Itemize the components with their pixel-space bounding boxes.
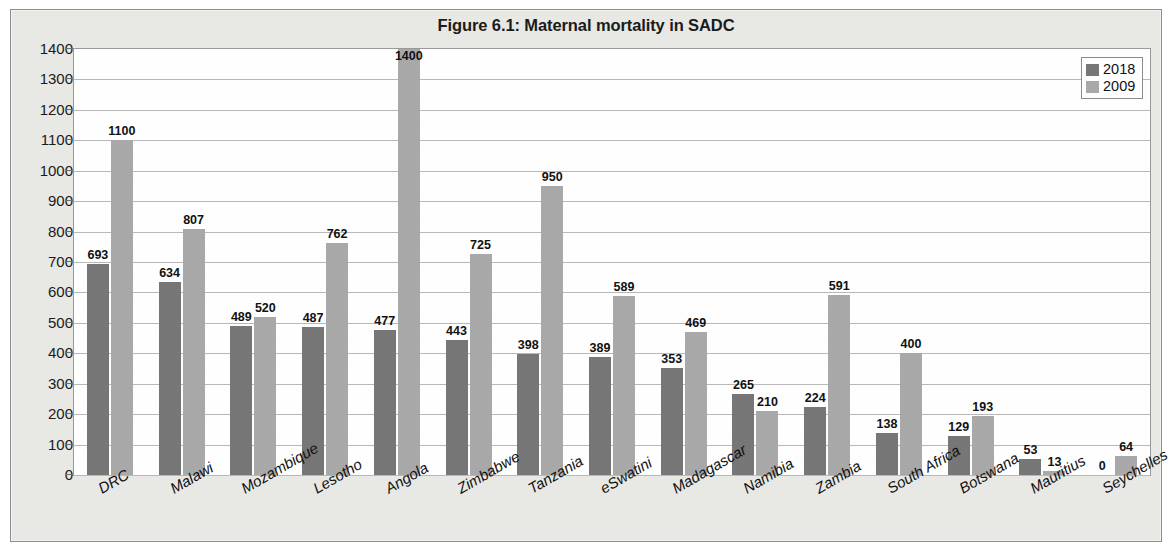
bar-value-label: 398 — [518, 338, 539, 352]
bar — [470, 254, 492, 475]
gridline — [74, 232, 1150, 233]
chart-title: Figure 6.1: Maternal mortality in SADC — [11, 16, 1161, 35]
legend-item-2009: 2009 — [1086, 78, 1138, 95]
bar — [685, 332, 707, 475]
bar — [111, 140, 133, 475]
y-axis-tick-mark — [66, 48, 73, 49]
bar-value-label: 589 — [614, 280, 635, 294]
bar — [1019, 459, 1041, 475]
bar-value-label: 224 — [805, 391, 826, 405]
bar — [661, 368, 683, 475]
bar-value-label: 950 — [542, 170, 563, 184]
gridline — [74, 171, 1150, 172]
y-axis-tick-mark — [66, 383, 73, 384]
plot-area: 6931100634807489520487762477140044372539… — [73, 48, 1151, 476]
bar-value-label: 1400 — [395, 49, 423, 63]
bar-value-label: 591 — [829, 279, 850, 293]
bar-value-label: 64 — [1119, 440, 1133, 454]
chart-legend: 2018 2009 — [1081, 57, 1143, 99]
bar — [541, 186, 563, 475]
bar — [613, 296, 635, 475]
y-axis-tick-mark — [66, 413, 73, 414]
bar-value-label: 193 — [972, 400, 993, 414]
bar — [446, 340, 468, 475]
bar — [87, 264, 109, 475]
y-axis-tick-mark — [66, 261, 73, 262]
y-axis-tick-mark — [66, 170, 73, 171]
x-axis: DRCMalawiMozambiqueLesothoAngolaZimbabwe… — [73, 476, 1151, 546]
y-axis-tick-mark — [66, 78, 73, 79]
bar-value-label: 443 — [446, 324, 467, 338]
y-axis-tick-mark — [66, 322, 73, 323]
y-axis-tick-mark — [66, 291, 73, 292]
bar-value-label: 477 — [374, 314, 395, 328]
bar-value-label: 725 — [470, 238, 491, 252]
legend-swatch-2018 — [1086, 64, 1099, 76]
bar-value-label: 389 — [590, 341, 611, 355]
bar-value-label: 520 — [255, 301, 276, 315]
bar — [374, 330, 396, 475]
bar — [254, 317, 276, 475]
gridline — [74, 201, 1150, 202]
bar — [398, 49, 420, 475]
bar-value-label: 807 — [183, 213, 204, 227]
bar — [900, 353, 922, 475]
bar-value-label: 400 — [900, 337, 921, 351]
y-axis-tick-mark — [66, 352, 73, 353]
gridline — [74, 262, 1150, 263]
bar-value-label: 210 — [757, 395, 778, 409]
bar — [517, 354, 539, 475]
bar-value-label: 265 — [733, 378, 754, 392]
bar — [159, 282, 181, 475]
gridline — [74, 292, 1150, 293]
legend-label-2009: 2009 — [1103, 79, 1135, 94]
bar-value-label: 487 — [303, 311, 324, 325]
y-axis-tick-mark — [66, 109, 73, 110]
y-axis-tick-mark — [66, 200, 73, 201]
gridline — [74, 79, 1150, 80]
y-axis: 1400130012001100100090080070060050040030… — [11, 48, 73, 476]
bar — [326, 243, 348, 475]
bar-value-label: 53 — [1023, 443, 1037, 457]
bar-value-label: 693 — [87, 248, 108, 262]
bar-value-label: 0 — [1099, 459, 1106, 473]
figure-container: Figure 6.1: Maternal mortality in SADC 1… — [10, 9, 1162, 542]
gridline — [74, 140, 1150, 141]
y-axis-tick-mark — [66, 474, 73, 475]
bar-value-label: 129 — [948, 420, 969, 434]
bar — [828, 295, 850, 475]
y-axis-tick-mark — [66, 139, 73, 140]
bar — [183, 229, 205, 475]
bar — [876, 433, 898, 475]
bar-value-label: 469 — [685, 316, 706, 330]
bar-value-label: 762 — [327, 227, 348, 241]
bar-value-label: 353 — [661, 352, 682, 366]
gridline — [74, 110, 1150, 111]
bar-value-label: 489 — [231, 310, 252, 324]
bar — [589, 357, 611, 475]
legend-swatch-2009 — [1086, 81, 1099, 93]
legend-label-2018: 2018 — [1103, 62, 1135, 77]
y-axis-tick-mark — [66, 231, 73, 232]
bar-value-label: 634 — [159, 266, 180, 280]
bar-value-label: 138 — [876, 417, 897, 431]
y-axis-tick-mark — [66, 444, 73, 445]
bar — [804, 407, 826, 475]
legend-item-2018: 2018 — [1086, 61, 1138, 78]
bar-value-label: 1100 — [108, 124, 135, 138]
bar — [230, 326, 252, 475]
